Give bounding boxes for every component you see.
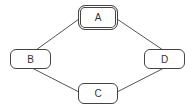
edge-a-d bbox=[117, 19, 163, 50]
node-a-label: A bbox=[95, 12, 102, 23]
edge-a-b bbox=[36, 19, 79, 50]
node-b: B bbox=[10, 49, 51, 69]
node-c: C bbox=[78, 83, 118, 104]
edge-c-d bbox=[117, 68, 164, 92]
node-a: A bbox=[78, 5, 118, 30]
node-b-label: B bbox=[27, 54, 34, 65]
node-d-label: D bbox=[161, 54, 168, 65]
node-c-label: C bbox=[94, 88, 101, 99]
edge-b-c bbox=[32, 68, 79, 92]
node-d: D bbox=[144, 49, 185, 69]
